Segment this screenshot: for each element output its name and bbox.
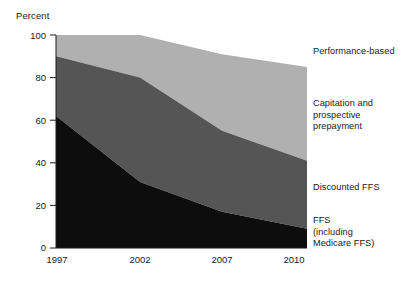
- legend-label-ffs: FFS (including Medicare FFS): [313, 215, 374, 250]
- chart-figure: Percent 100 80 60 40 20 0 1997 2002 2007…: [0, 0, 419, 285]
- legend-label-capitation: Capitation and prospective prepayment: [313, 98, 373, 133]
- legend-label-performance-based: Performance-based: [313, 46, 395, 58]
- legend-label-discounted-ffs: Discounted FFS: [313, 182, 380, 194]
